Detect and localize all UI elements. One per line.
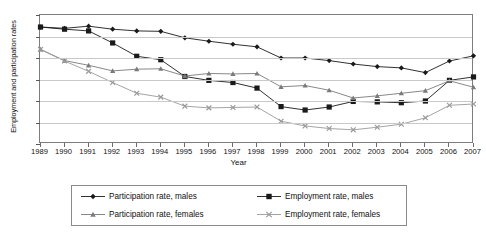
legend-label: Participation rate, males [109, 192, 197, 201]
gridline [40, 123, 472, 124]
series-1 [38, 24, 476, 76]
triangle-marker-icon [80, 209, 106, 220]
cross-marker-icon [256, 209, 282, 220]
chart-legend: Participation rate, malesEmployment rate… [71, 185, 407, 226]
y-axis-title: Employment and participation rates [9, 7, 18, 147]
x-axis-title: Year [0, 158, 477, 167]
legend-label: Employment rate, males [285, 192, 373, 201]
diamond-marker-icon [80, 191, 106, 202]
y-tick-mark [36, 15, 40, 16]
y-tick-mark [36, 123, 40, 124]
square-marker-icon [256, 191, 282, 202]
series-3 [38, 47, 476, 100]
plot-area [39, 14, 473, 143]
y-tick-mark [36, 80, 40, 81]
legend-item-4[interactable]: Employment rate, females [256, 209, 416, 220]
y-tick-mark [36, 37, 40, 38]
gridline [40, 37, 472, 38]
gridline [40, 101, 472, 102]
x-tick-label: 2007 [458, 147, 486, 156]
gridline [40, 58, 472, 59]
legend-item-1[interactable]: Participation rate, males [80, 191, 256, 202]
y-tick-mark [36, 101, 40, 102]
legend-item-3[interactable]: Participation rate, females [80, 209, 256, 220]
legend-label: Employment rate, females [285, 210, 380, 219]
gridline [40, 80, 472, 81]
legend-label: Participation rate, females [109, 210, 204, 219]
legend-item-2[interactable]: Employment rate, males [256, 191, 416, 202]
y-tick-mark [36, 58, 40, 59]
